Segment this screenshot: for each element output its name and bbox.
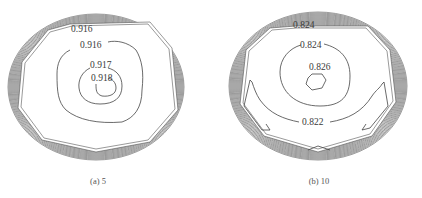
panel-b-contour-plot: 0.824 0.824 0.826 0.822 (b) 10 [229, 12, 407, 186]
panel-a-label-0918: 0.918 [91, 73, 113, 83]
figure: 0.916 0.916 0.917 0.918 (a) 5 [0, 0, 422, 198]
panel-a-label-0916: 0.916 [80, 40, 102, 50]
panel-b-label-0824-top: 0.824 [293, 20, 315, 30]
panel-b-label-0824: 0.824 [300, 40, 322, 50]
panel-b-label-0822: 0.822 [302, 117, 324, 127]
panel-a-label-0916-top: 0.916 [71, 24, 93, 34]
panel-a-caption: (a) 5 [90, 176, 106, 186]
panel-b-label-0826: 0.826 [309, 62, 331, 72]
panel-a-contour-plot: 0.916 0.916 0.917 0.918 (a) 5 [8, 14, 184, 186]
panel-a-label-0917: 0.917 [90, 60, 112, 70]
panel-b-caption: (b) 10 [309, 176, 330, 186]
